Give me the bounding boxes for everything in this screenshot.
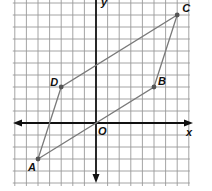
- coordinate-plane-diagram: ABCD y x O: [0, 0, 212, 191]
- y-axis-down-arrow-icon: [93, 174, 100, 183]
- y-axis-label: y: [100, 0, 108, 8]
- labels: y x O: [98, 0, 193, 138]
- vertex-label-d: D: [50, 76, 58, 88]
- vertex-point-b: [152, 85, 157, 90]
- vertex-label-b: B: [158, 75, 166, 87]
- vertex-label-a: A: [27, 161, 36, 173]
- vertex-point-c: [175, 13, 180, 18]
- vertex-point-d: [59, 85, 64, 90]
- x-axis-label: x: [185, 126, 193, 138]
- vertex-label-c: C: [182, 2, 191, 14]
- origin-label: O: [98, 125, 107, 137]
- coordinate-grid: ABCD y x O: [0, 0, 212, 191]
- vertex-point-a: [36, 157, 41, 162]
